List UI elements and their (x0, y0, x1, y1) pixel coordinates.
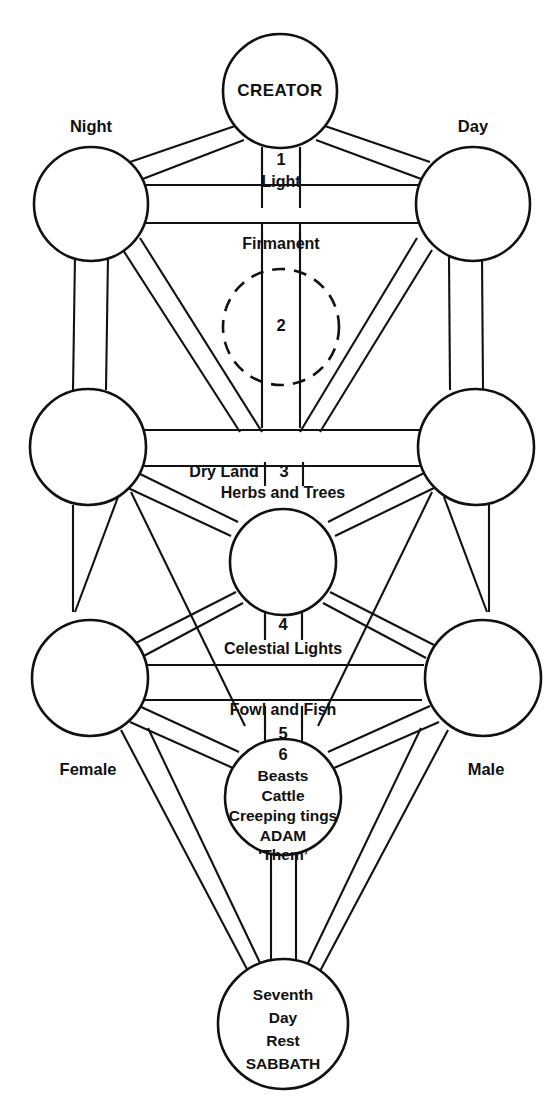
path-night-diag-b (140, 238, 262, 432)
path-night-chesed-a (73, 255, 75, 390)
path-4-number: 4 (278, 615, 288, 633)
path-1-number: 1 (276, 150, 285, 168)
path-5-number: 5 (278, 724, 287, 742)
node-day[interactable] (416, 147, 530, 261)
node-center-four[interactable] (230, 509, 336, 615)
node-female-label: Female (60, 760, 117, 778)
path-day-gevurah-b (482, 255, 483, 390)
node-left-middle[interactable] (30, 389, 146, 505)
path-creator-night-b (140, 140, 244, 180)
path-leftmid-female-a (75, 497, 118, 612)
path-3-label-below: Herbs and Trees (221, 484, 346, 501)
path-4-label: Celestial Lights (224, 640, 342, 657)
path-day-diag-b (300, 238, 417, 432)
sephirot-circles (30, 34, 541, 1089)
node-night[interactable] (34, 147, 148, 261)
node-adam-line-5: ‘Them’ (258, 846, 308, 863)
path-female-adam-b (130, 722, 233, 768)
path-day-diag-a (320, 250, 432, 432)
path-5-label: Fowl and Fish (230, 701, 337, 718)
path-creator-day-b (316, 140, 424, 180)
node-right-middle[interactable] (418, 389, 534, 505)
node-sabbath-line-1: Seventh (253, 986, 313, 1003)
node-sabbath-line-4: SABBATH (246, 1055, 321, 1072)
path-creator-day-a (325, 126, 430, 162)
node-male-label: Male (468, 760, 505, 778)
node-creator-label: CREATOR (237, 81, 322, 100)
tree-of-life-svg: CREATOR Night Day 1 Light Firmanent 2 Dr… (0, 0, 559, 1103)
node-adam-line-2: Cattle (261, 787, 304, 804)
path-2-number: 2 (276, 316, 285, 334)
path-rightmid-male-a (444, 497, 487, 612)
creation-tree-diagram: CREATOR Night Day 1 Light Firmanent 2 Dr… (0, 0, 559, 1103)
node-adam-line-3: Creeping tings (229, 807, 338, 824)
path-3-number: 3 (279, 462, 288, 480)
node-adam-line-4: ADAM (260, 827, 307, 844)
path-3-label-left: Dry Land (189, 463, 258, 480)
node-female[interactable] (32, 620, 148, 736)
path-tiferet-male-a (330, 592, 434, 645)
path-female-adam-a (139, 706, 239, 752)
path-night-chesed-b (106, 256, 108, 390)
node-day-label: Day (458, 117, 489, 135)
node-sabbath-line-3: Rest (266, 1032, 300, 1049)
node-adam-line-1: Beasts (258, 767, 309, 784)
node-male[interactable] (425, 620, 541, 736)
node-night-label: Night (70, 117, 113, 135)
path-night-diag-a (123, 250, 240, 432)
path-creator-night-a (130, 126, 235, 162)
path-leftmid-long-a (131, 492, 245, 726)
path-2-label: Firmanent (242, 235, 320, 252)
path-6-number: 6 (278, 745, 287, 763)
path-day-gevurah-a (449, 256, 450, 390)
node-sabbath-line-2: Day (269, 1009, 298, 1026)
path-male-adam-b (334, 722, 439, 768)
path-male-adam-a (328, 706, 430, 752)
path-1-label: Light (261, 173, 301, 190)
